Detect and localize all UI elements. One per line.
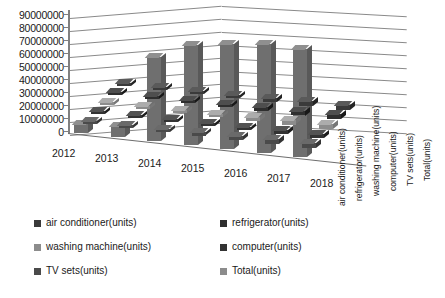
bar-washing-machine-units--2014 <box>173 110 187 113</box>
legend-item[interactable]: TV sets(units) <box>34 266 108 276</box>
bar-front <box>299 101 313 106</box>
bar-front <box>282 120 296 124</box>
legend-swatch-icon <box>34 220 41 227</box>
bar-air-conditioner-units--2018 <box>336 105 350 110</box>
y-tick-label: 90000000 <box>19 10 64 21</box>
bar-computer-units--2017 <box>274 130 288 134</box>
bar-air-conditioner-units--2015 <box>226 95 240 98</box>
legend-item[interactable]: washing machine(units) <box>34 242 151 252</box>
bar-computer-units--2014 <box>164 119 178 122</box>
bar-refrigerator-units--2018 <box>327 114 341 119</box>
y-tick-label: 60000000 <box>19 49 64 60</box>
gridline <box>70 19 222 32</box>
y-axis-tick <box>64 27 69 28</box>
depth-axis-label: TV sets(units) <box>406 133 415 186</box>
bar-washing-machine-units--2016 <box>246 117 260 121</box>
y-axis-tick <box>64 92 69 93</box>
legend-swatch-icon <box>220 244 227 251</box>
legend-label: TV sets(units) <box>46 266 108 276</box>
bar-air-conditioner-units--2014 <box>190 91 204 94</box>
gridline <box>222 19 407 30</box>
bar-washing-machine-units--2017 <box>282 120 296 124</box>
bar-tv-sets-units--2017 <box>265 139 279 144</box>
depth-axis-label: air conditioner(units) <box>338 128 347 206</box>
plot-area <box>70 14 370 138</box>
y-tick-label: 20000000 <box>19 101 64 112</box>
y-axis-tick <box>64 79 69 80</box>
bar-tv-sets-units--2015 <box>192 132 206 135</box>
y-axis-tick <box>64 131 69 132</box>
bar-refrigerator-units--2016 <box>254 107 268 111</box>
bar-washing-machine-units--2018 <box>319 124 333 129</box>
bar-tv-sets-units--2016 <box>229 136 243 140</box>
bar-air-conditioner-units--2016 <box>263 98 277 102</box>
bar-air-conditioner-units--2012 <box>117 83 131 86</box>
bar-tv-sets-units--2012 <box>83 121 97 124</box>
y-axis-tick <box>64 105 69 106</box>
x-tick-label: 2017 <box>267 173 290 184</box>
y-tick-label: 30000000 <box>19 88 64 99</box>
y-tick-label: 0 <box>58 127 64 138</box>
bar-computer-units--2015 <box>201 123 215 126</box>
legend-label: air conditioner(units) <box>46 218 137 228</box>
bar-side <box>313 97 318 105</box>
gridline <box>222 58 407 69</box>
bar-front <box>74 124 88 133</box>
chart-legend: air conditioner(units) washing machine(u… <box>34 218 364 290</box>
gridline <box>222 6 407 17</box>
y-tick-label: 50000000 <box>19 62 64 73</box>
x-tick-label: 2016 <box>224 168 247 179</box>
bar-front <box>111 126 125 137</box>
legend-label: refrigerator(units) <box>232 218 309 228</box>
bar-refrigerator-units--2017 <box>291 111 305 116</box>
legend-swatch-icon <box>220 268 227 275</box>
bar-computer-units--2016 <box>237 127 251 130</box>
x-tick-label: 2013 <box>95 153 118 164</box>
legend-swatch-icon <box>34 244 41 251</box>
depth-axis-label: washing machine(units) <box>372 106 381 196</box>
legend-item[interactable]: refrigerator(units) <box>220 218 309 228</box>
bar-tv-sets-units--2018 <box>302 143 316 148</box>
y-axis-tick <box>64 118 69 119</box>
gridline <box>222 71 407 82</box>
depth-axis-label: refrigerator(units) <box>355 135 364 201</box>
bar-tv-sets-units--2013 <box>119 125 133 128</box>
y-axis: 90000000 80000000 70000000 60000000 5000… <box>0 10 68 140</box>
y-tick-label: 10000000 <box>19 114 64 125</box>
y-axis-tick <box>64 14 69 15</box>
legend-item[interactable]: Total(units) <box>220 266 281 276</box>
x-tick-label: 2014 <box>138 158 161 169</box>
bar-computer-units--2013 <box>128 115 142 118</box>
bar-total-units--2013 <box>111 126 125 137</box>
y-axis-tick <box>64 53 69 54</box>
bar-refrigerator-units--2014 <box>181 100 195 103</box>
depth-axis: air conditioner(units) refrigerator(unit… <box>330 120 445 215</box>
bar-front <box>327 114 341 119</box>
bar-side <box>341 110 346 119</box>
bar-refrigerator-units--2012 <box>108 92 122 95</box>
bar-air-conditioner-units--2013 <box>153 87 167 90</box>
legend-item[interactable]: air conditioner(units) <box>34 218 137 228</box>
bar-washing-machine-units--2012 <box>100 102 114 105</box>
depth-axis-label: Total(units) <box>423 139 432 181</box>
bar-refrigerator-units--2013 <box>145 96 159 99</box>
legend-item[interactable]: computer(units) <box>220 242 301 252</box>
bar-washing-machine-units--2015 <box>209 114 223 117</box>
gridline <box>222 32 407 43</box>
bar-air-conditioner-units--2017 <box>299 101 313 106</box>
gridline <box>222 45 407 56</box>
gridline <box>70 6 222 19</box>
y-tick-label: 40000000 <box>19 75 64 86</box>
legend-label: washing machine(units) <box>46 242 151 252</box>
depth-axis-label: computer(units) <box>389 131 398 191</box>
bar-refrigerator-units--2015 <box>218 104 232 107</box>
bar-computer-units--2012 <box>91 111 105 114</box>
bar-computer-units--2018 <box>310 134 324 138</box>
bar-tv-sets-units--2014 <box>156 129 170 132</box>
legend-swatch-icon <box>34 268 41 275</box>
y-tick-label: 80000000 <box>19 23 64 34</box>
gridline <box>222 84 407 95</box>
bar-total-units--2012 <box>74 124 88 133</box>
y-axis-tick <box>64 66 69 67</box>
legend-swatch-icon <box>220 220 227 227</box>
